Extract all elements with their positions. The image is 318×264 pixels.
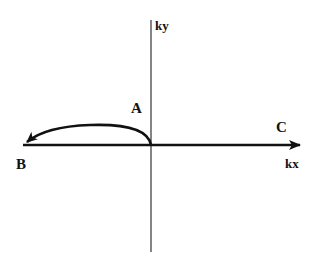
point-a-label: A xyxy=(131,100,142,116)
k-space-diagram: ky A C B kx xyxy=(0,0,318,264)
point-c-label: C xyxy=(276,119,287,135)
kx-axis-label: kx xyxy=(285,156,299,171)
ky-axis-label: ky xyxy=(155,18,169,33)
point-b-label: B xyxy=(16,156,26,172)
trajectory-curve-a-to-b xyxy=(27,125,151,145)
